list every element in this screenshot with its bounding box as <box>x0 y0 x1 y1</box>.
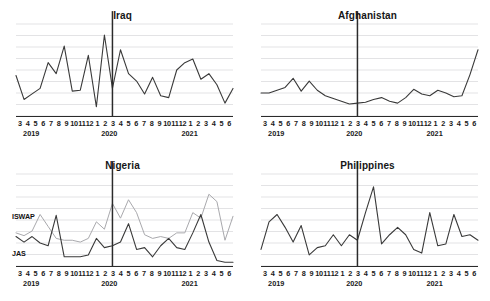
year-label: 2019 <box>23 279 39 288</box>
month-tick: 5 <box>218 119 226 128</box>
axis-line-philippines <box>261 266 478 267</box>
month-tick: 8 <box>55 119 63 128</box>
month-tick: 6 <box>132 269 140 278</box>
plot-area-afghanistan <box>261 24 478 116</box>
month-tick: 4 <box>210 269 218 278</box>
month-tick: 6 <box>470 269 478 278</box>
month-tick: 4 <box>269 269 277 278</box>
month-tick: 6 <box>284 269 292 278</box>
gridlines-iraq <box>16 24 233 116</box>
month-tick: 9 <box>63 119 71 128</box>
month-ticks-nigeria: 3456789101112123456789101112123456 <box>16 269 233 278</box>
axis-philippines: 3456789101112123456789101112123456 20192… <box>261 266 478 290</box>
axis-line-nigeria <box>16 266 233 267</box>
month-tick: 7 <box>385 269 393 278</box>
series-line-afghanistan <box>261 50 478 104</box>
month-ticks-afghanistan: 3456789101112123456789101112123456 <box>261 119 478 128</box>
month-tick: 5 <box>463 119 471 128</box>
month-tick: 4 <box>455 119 463 128</box>
panel-title-iraq: Iraq <box>0 10 245 21</box>
month-tick: 4 <box>269 119 277 128</box>
month-tick: 2 <box>194 269 202 278</box>
plot-area-philippines <box>261 174 478 266</box>
month-tick: 8 <box>55 269 63 278</box>
plot-area-nigeria <box>16 174 233 266</box>
month-tick: 6 <box>39 119 47 128</box>
chart-svg-philippines <box>261 174 478 266</box>
month-tick: 3 <box>261 269 269 278</box>
year-label: 2019 <box>268 279 284 288</box>
month-tick: 5 <box>218 269 226 278</box>
month-tick: 10 <box>70 269 78 278</box>
month-tick: 3 <box>109 119 117 128</box>
month-tick: 7 <box>47 119 55 128</box>
year-label: 2021 <box>181 129 197 138</box>
month-tick: 11 <box>171 269 179 278</box>
month-tick: 6 <box>132 119 140 128</box>
gridlines-nigeria <box>16 174 233 266</box>
month-tick: 4 <box>455 269 463 278</box>
month-tick: 6 <box>225 269 233 278</box>
month-tick: 4 <box>362 119 370 128</box>
year-label: 2020 <box>346 129 362 138</box>
month-tick: 1 <box>432 119 440 128</box>
year-labels-afghanistan: 201920202021 <box>261 129 478 140</box>
panel-philippines: Philippines 3456789101112123456789101112… <box>245 150 490 301</box>
month-tick: 7 <box>292 119 300 128</box>
month-tick: 2 <box>439 119 447 128</box>
year-label: 2020 <box>346 279 362 288</box>
month-tick: 10 <box>408 119 416 128</box>
month-tick: 2 <box>346 269 354 278</box>
month-tick: 9 <box>156 269 164 278</box>
month-tick: 5 <box>125 269 133 278</box>
series-line-iraq <box>16 35 233 107</box>
month-tick: 4 <box>362 269 370 278</box>
month-tick: 10 <box>163 269 171 278</box>
year-labels-iraq: 201920202021 <box>16 129 233 140</box>
year-label: 2021 <box>181 279 197 288</box>
month-tick: 5 <box>370 269 378 278</box>
gridlines-afghanistan <box>261 24 478 116</box>
month-tick: 3 <box>202 119 210 128</box>
month-tick: 2 <box>439 269 447 278</box>
month-tick: 3 <box>16 119 24 128</box>
month-tick: 3 <box>16 269 24 278</box>
month-tick: 8 <box>393 119 401 128</box>
month-tick: 5 <box>32 269 40 278</box>
month-tick: 9 <box>308 119 316 128</box>
month-tick: 2 <box>194 119 202 128</box>
month-tick: 7 <box>385 119 393 128</box>
month-tick: 3 <box>261 119 269 128</box>
month-ticks-iraq: 3456789101112123456789101112123456 <box>16 119 233 128</box>
panel-iraq: Iraq 3456789101112123456789101112123456 … <box>0 0 245 150</box>
month-tick: 11 <box>171 119 179 128</box>
axis-afghanistan: 3456789101112123456789101112123456 20192… <box>261 116 478 140</box>
month-tick: 7 <box>47 269 55 278</box>
month-tick: 9 <box>401 119 409 128</box>
month-tick: 7 <box>292 269 300 278</box>
month-tick: 5 <box>277 119 285 128</box>
month-tick: 7 <box>140 119 148 128</box>
gridlines-philippines <box>261 174 478 266</box>
series-line-jas <box>16 214 233 262</box>
month-tick: 6 <box>470 119 478 128</box>
month-tick: 10 <box>315 119 323 128</box>
month-tick: 3 <box>447 119 455 128</box>
series-line-iswap <box>16 194 233 242</box>
month-tick: 7 <box>140 269 148 278</box>
month-tick: 8 <box>300 119 308 128</box>
month-tick: 6 <box>377 119 385 128</box>
year-labels-philippines: 201920202021 <box>261 279 478 290</box>
panel-afghanistan: Afghanistan 3456789101112123456789101112… <box>245 0 490 150</box>
plot-area-iraq <box>16 24 233 116</box>
chart-svg-nigeria <box>16 174 233 266</box>
year-labels-nigeria: 201920202021 <box>16 279 233 290</box>
month-tick: 12 <box>86 119 94 128</box>
month-tick: 11 <box>416 269 424 278</box>
month-tick: 8 <box>393 269 401 278</box>
month-tick: 9 <box>401 269 409 278</box>
chart-svg-iraq <box>16 24 233 116</box>
series-label-iswap: ISWAP <box>12 212 35 221</box>
year-label: 2019 <box>23 129 39 138</box>
month-tick: 3 <box>202 269 210 278</box>
